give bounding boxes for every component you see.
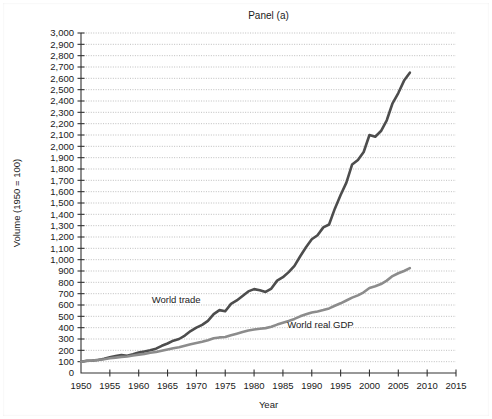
- x-tick-label: 1975: [215, 380, 236, 391]
- y-tick-label: 0: [69, 367, 74, 378]
- x-tick-label: 1950: [70, 380, 91, 391]
- y-tick-label: 1,400: [50, 209, 74, 220]
- figure-panel-a: 01002003004005006007008009001,0001,1001,…: [0, 0, 492, 419]
- y-axis-title: Volume (1950 = 100): [11, 159, 22, 247]
- axes-layer: [78, 33, 457, 377]
- y-tick-label: 3,000: [50, 27, 74, 38]
- y-tick-label: 2,800: [50, 50, 74, 61]
- y-tick-label: 1,200: [50, 231, 74, 242]
- y-tick-label: 2,000: [50, 141, 74, 152]
- series-layer: [81, 73, 410, 362]
- x-tick-label: 1990: [301, 380, 322, 391]
- y-tick-label: 2,600: [50, 73, 74, 84]
- series-label: World trade: [152, 294, 201, 305]
- x-tick-label: 1960: [128, 380, 149, 391]
- y-tick-label: 1,800: [50, 163, 74, 174]
- y-tick-label: 2,700: [50, 61, 74, 72]
- x-tick-label: 2005: [388, 380, 409, 391]
- x-tick-label: 2015: [445, 380, 466, 391]
- x-tick-label: 1980: [244, 380, 265, 391]
- y-tick-label: 900: [58, 265, 74, 276]
- x-tick-label: 1955: [99, 380, 120, 391]
- x-tick-label: 1985: [272, 380, 293, 391]
- y-tick-label: 2,300: [50, 107, 74, 118]
- y-tick-label: 100: [58, 356, 74, 367]
- y-tick-label: 1,900: [50, 152, 74, 163]
- y-tick-label: 2,400: [50, 95, 74, 106]
- y-tick-label: 1,500: [50, 197, 74, 208]
- series-line: [81, 73, 410, 362]
- ytick-labels: 01002003004005006007008009001,0001,1001,…: [50, 27, 74, 378]
- y-tick-label: 1,300: [50, 220, 74, 231]
- y-tick-label: 2,500: [50, 84, 74, 95]
- y-tick-label: 600: [58, 299, 74, 310]
- chart-title: Panel (a): [248, 10, 289, 21]
- y-tick-label: 500: [58, 311, 74, 322]
- gridlines-layer: [81, 33, 456, 362]
- y-tick-label: 1,700: [50, 175, 74, 186]
- x-tick-label: 2000: [359, 380, 380, 391]
- y-tick-label: 700: [58, 288, 74, 299]
- series-label: World real GDP: [287, 319, 353, 330]
- y-tick-label: 1,100: [50, 243, 74, 254]
- line-chart: 01002003004005006007008009001,0001,1001,…: [0, 0, 492, 419]
- x-tick-label: 1970: [186, 380, 207, 391]
- y-tick-label: 300: [58, 333, 74, 344]
- y-tick-label: 200: [58, 345, 74, 356]
- y-tick-label: 2,100: [50, 129, 74, 140]
- x-tick-label: 1995: [330, 380, 351, 391]
- y-tick-label: 2,900: [50, 39, 74, 50]
- x-axis-title: Year: [259, 399, 278, 410]
- y-tick-label: 400: [58, 322, 74, 333]
- x-tick-label: 2010: [417, 380, 438, 391]
- y-tick-label: 1,000: [50, 254, 74, 265]
- x-tick-label: 1965: [157, 380, 178, 391]
- series-annotations: World tradeWorld real GDP: [152, 294, 354, 330]
- y-tick-label: 1,600: [50, 186, 74, 197]
- xtick-labels: 1950195519601965197019751980198519901995…: [70, 380, 466, 391]
- y-tick-label: 2,200: [50, 118, 74, 129]
- y-tick-label: 800: [58, 277, 74, 288]
